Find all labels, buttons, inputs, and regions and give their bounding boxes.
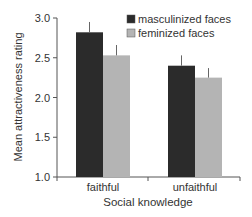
- x-tick-label: faithful: [87, 181, 119, 193]
- y-axis: 1.01.52.02.53.0: [35, 12, 57, 183]
- bars: [76, 22, 222, 177]
- chart-canvas: 1.01.52.02.53.0 faithfulunfaithful mascu…: [0, 0, 252, 217]
- bar: [168, 66, 195, 177]
- bar: [195, 78, 222, 177]
- y-tick-label: 2.0: [35, 92, 50, 104]
- x-axis-label: Social knowledge: [103, 196, 193, 208]
- bar: [76, 32, 103, 177]
- bar-chart: 1.01.52.02.53.0 faithfulunfaithful mascu…: [0, 0, 252, 217]
- x-tick-label: unfaithful: [173, 181, 218, 193]
- bar: [103, 55, 130, 177]
- legend-label: feminized faces: [138, 27, 215, 39]
- y-tick-label: 1.0: [35, 171, 50, 183]
- y-axis-label: Mean attractiveness rating: [12, 32, 24, 161]
- y-tick-label: 3.0: [35, 12, 50, 24]
- y-tick-label: 1.5: [35, 131, 50, 143]
- legend-swatch: [127, 29, 135, 37]
- legend: masculinized facesfeminized faces: [127, 13, 231, 39]
- legend-label: masculinized faces: [138, 13, 231, 25]
- y-tick-label: 2.5: [35, 52, 50, 64]
- x-axis: faithfulunfaithful: [57, 177, 240, 193]
- legend-swatch: [127, 15, 135, 23]
